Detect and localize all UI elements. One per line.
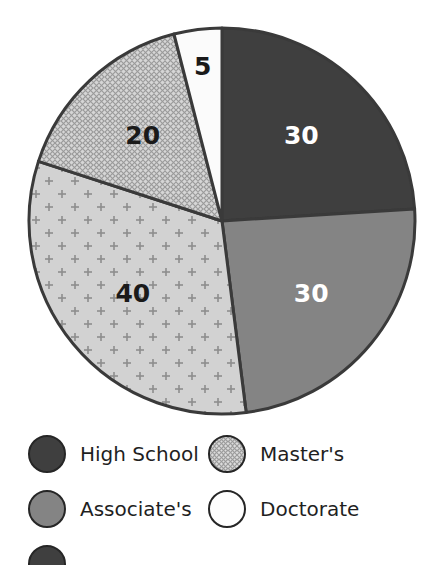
legend-swatch-masters xyxy=(208,435,246,473)
legend-label-masters: Master's xyxy=(260,444,344,464)
legend-row-partial xyxy=(0,536,445,565)
pie-chart-plot-area: 30 30 40 20 5 xyxy=(0,0,445,425)
legend-row: Associate's Doctorate xyxy=(0,481,445,537)
pie-value-label-doctorate: 5 xyxy=(194,52,211,81)
pie-chart-svg: 30 30 40 20 5 xyxy=(0,0,445,425)
pie-chart-figure: 30 30 40 20 5 High School Master's Assoc… xyxy=(0,0,445,565)
legend-item-associates[interactable]: Associate's xyxy=(0,490,205,528)
legend-item-doctorate[interactable]: Doctorate xyxy=(205,490,415,528)
pie-value-label-associates: 30 xyxy=(294,279,329,308)
legend-item-high-school[interactable]: High School xyxy=(0,435,205,473)
pie-slices xyxy=(29,28,415,414)
legend-swatch-associates xyxy=(28,490,66,528)
chart-legend: High School Master's Associate's Doctora… xyxy=(0,423,445,565)
pie-value-label-masters: 20 xyxy=(125,121,160,150)
legend-item-partial[interactable] xyxy=(0,545,205,565)
legend-row: High School Master's xyxy=(0,426,445,482)
pie-slice-associates[interactable] xyxy=(222,209,415,413)
legend-label-doctorate: Doctorate xyxy=(260,499,359,519)
pie-value-label-bachelors: 40 xyxy=(115,279,150,308)
legend-label-associates: Associate's xyxy=(80,499,192,519)
pie-value-label-high-school: 30 xyxy=(284,121,319,150)
legend-swatch-doctorate xyxy=(208,490,246,528)
legend-swatch-high-school xyxy=(28,435,66,473)
legend-swatch-partial xyxy=(28,545,66,565)
legend-item-masters[interactable]: Master's xyxy=(205,435,415,473)
legend-label-high-school: High School xyxy=(80,444,199,464)
